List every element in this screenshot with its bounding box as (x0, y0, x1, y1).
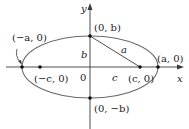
point-left-focus (38, 65, 42, 69)
label-left-vertex: (−a, 0) (12, 32, 47, 43)
point-bottom-vertex (88, 96, 92, 100)
x-axis-label: x (177, 73, 183, 84)
point-right-vertex (156, 65, 160, 69)
segment-label-b: b (81, 49, 87, 60)
label-left-focus: (−c, 0) (34, 73, 69, 84)
origin-label: 0 (80, 72, 86, 83)
y-axis-label: y (80, 3, 87, 14)
segment-label-c: c (112, 72, 118, 83)
y-axis-arrow-icon (88, 3, 93, 10)
pointer-arrow (16, 49, 20, 62)
ellipse-diagram: y x 0 (0, b) (0, −b) (−a, 0) (a, 0) (−c,… (0, 0, 189, 129)
x-axis-arrow-icon (177, 65, 184, 70)
point-top-vertex (88, 34, 92, 38)
hypotenuse-segment (90, 36, 140, 67)
point-left-vertex (20, 65, 24, 69)
segment-label-a: a (121, 44, 127, 55)
label-right-vertex: (a, 0) (157, 53, 184, 64)
label-right-focus: (c, 0) (128, 73, 154, 84)
point-right-focus (138, 65, 142, 69)
label-bottom-vertex: (0, −b) (94, 103, 129, 114)
label-top-vertex: (0, b) (94, 22, 121, 33)
